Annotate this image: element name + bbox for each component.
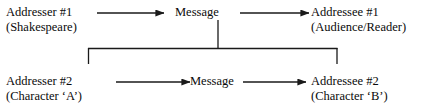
node-addresser-1: Addresser #1 (Shakespeare) xyxy=(6,5,77,35)
node-addresser-1-line2: (Shakespeare) xyxy=(6,20,77,35)
node-addressee-1-line2: (Audience/Reader) xyxy=(311,20,406,35)
node-addressee-2: Addressee #2 (Character ‘B’) xyxy=(311,74,388,104)
node-message-top-label: Message xyxy=(175,5,219,19)
embedding-bracket xyxy=(88,20,338,64)
node-addressee-1: Addressee #1 (Audience/Reader) xyxy=(311,5,406,35)
communication-model-diagram: Addresser #1 (Shakespeare) Message Addre… xyxy=(0,0,436,111)
node-addresser-2-line2: (Character ‘A’) xyxy=(6,89,82,104)
node-addressee-2-line1: Addressee #2 xyxy=(311,74,379,88)
node-addresser-1-line1: Addresser #1 xyxy=(6,5,72,19)
node-message-bottom: Message xyxy=(190,74,234,89)
node-message-top: Message xyxy=(175,5,219,20)
node-addresser-2-line1: Addresser #2 xyxy=(6,74,72,88)
node-addressee-2-line2: (Character ‘B’) xyxy=(311,89,388,104)
node-addressee-1-line1: Addressee #1 xyxy=(311,5,379,19)
node-addresser-2: Addresser #2 (Character ‘A’) xyxy=(6,74,82,104)
node-message-bottom-label: Message xyxy=(190,74,234,88)
